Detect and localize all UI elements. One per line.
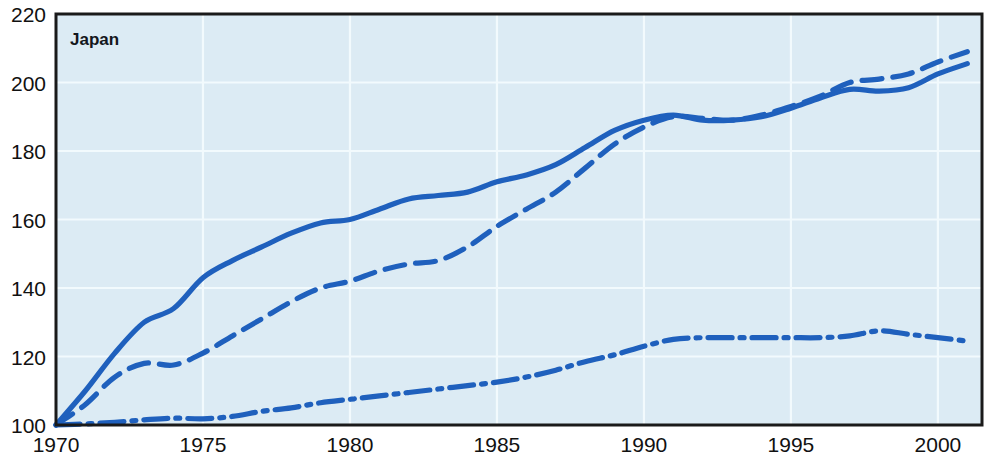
panel-title: Japan: [70, 30, 119, 49]
y-tick-label: 120: [11, 346, 46, 369]
line-chart: 100120140160180200220 197019751980198519…: [0, 0, 999, 467]
chart-container: 100120140160180200220 197019751980198519…: [0, 0, 999, 467]
x-tick-label: 1990: [621, 433, 668, 456]
y-tick-label: 200: [11, 72, 46, 95]
x-tick-label: 2000: [915, 433, 962, 456]
y-tick-label: 180: [11, 140, 46, 163]
x-tick-label: 1975: [180, 433, 227, 456]
x-tick-label: 1970: [33, 433, 80, 456]
y-tick-label: 140: [11, 277, 46, 300]
x-tick-label: 1995: [768, 433, 815, 456]
x-tick-label: 1985: [474, 433, 521, 456]
x-tick-label: 1980: [327, 433, 374, 456]
y-tick-label: 160: [11, 209, 46, 232]
y-tick-label: 220: [11, 3, 46, 26]
